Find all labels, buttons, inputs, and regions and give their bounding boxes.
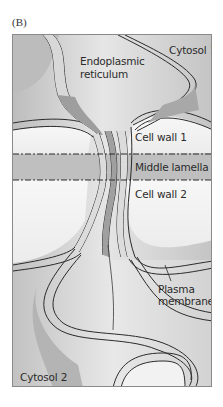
label-plasma-membrane-line1: Plasma bbox=[158, 283, 195, 296]
label-endoplasmic-reticulum-line1: Endoplasmic bbox=[80, 55, 145, 68]
cell-wall-1-left bbox=[13, 127, 91, 155]
label-endoplasmic-reticulum-line2: reticulum bbox=[80, 68, 128, 81]
label-cell-wall-1: Cell wall 1 bbox=[135, 131, 187, 144]
label-middle-lamella: Middle lamella bbox=[135, 161, 209, 174]
plasmodesma-illustration bbox=[13, 35, 212, 387]
cytosol-2-region bbox=[13, 260, 212, 387]
label-cytosol-2: Cytosol 2 bbox=[20, 371, 67, 384]
label-cell-wall-2: Cell wall 2 bbox=[135, 188, 187, 201]
label-plasma-membrane-line2: membrane bbox=[158, 295, 212, 308]
panel-label: (B) bbox=[12, 16, 27, 28]
plasmodesma-diagram: Cytosol 1 Endoplasmic reticulum Cell wal… bbox=[12, 34, 212, 387]
label-cytosol-1: Cytosol 1 bbox=[169, 44, 212, 57]
